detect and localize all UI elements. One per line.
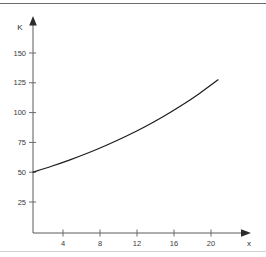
y-tick-label: 125 [13, 78, 26, 87]
line-chart-plot: 25 50 75 100 125 150 4 8 12 16 20 K x [0, 0, 266, 257]
data-curve [33, 80, 218, 172]
x-tick-label: 8 [98, 239, 102, 248]
y-axis-arrow-icon [29, 16, 37, 26]
y-tick-label: 75 [18, 138, 26, 147]
x-tick-label: 20 [207, 239, 215, 248]
y-tick-label: 150 [13, 49, 26, 58]
chart-figure: 25 50 75 100 125 150 4 8 12 16 20 K x [0, 0, 266, 257]
y-axis-title: K [17, 23, 23, 32]
x-tick-label: 4 [61, 239, 65, 248]
y-tick-label: 50 [18, 168, 26, 177]
x-axis-title: x [247, 239, 251, 248]
x-tick-label: 12 [133, 239, 141, 248]
x-tick-label: 16 [170, 239, 178, 248]
x-axis-arrow-icon [241, 229, 251, 237]
y-tick-label: 100 [13, 108, 26, 117]
y-tick-label: 25 [18, 198, 26, 207]
